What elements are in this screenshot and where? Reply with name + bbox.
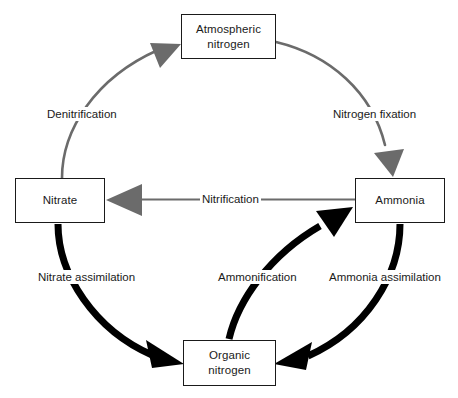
node-organic-nitrogen[interactable]: Organic nitrogen: [183, 340, 276, 386]
node-ammonia[interactable]: Ammonia: [355, 178, 445, 223]
edge-label-ammonia-assimilation: Ammonia assimilation: [327, 270, 443, 284]
edge-label-nitrification: Nitrification: [200, 192, 261, 206]
node-organic-nitrogen-line1: Organic: [209, 348, 250, 363]
denitrification-arrowhead: [150, 43, 181, 68]
edge-label-denitrification: Denitrification: [45, 107, 119, 121]
edge-label-ammonification: Ammonification: [216, 270, 299, 284]
ammonia-assimilation-arrowhead: [274, 342, 312, 370]
node-nitrate[interactable]: Nitrate: [15, 178, 105, 223]
node-atmospheric-nitrogen-line2: nitrogen: [207, 37, 249, 52]
node-atmospheric-nitrogen[interactable]: Atmospheric nitrogen: [181, 14, 276, 59]
node-nitrate-line1: Nitrate: [43, 193, 78, 208]
nitrogen-fixation-arrow-path: [276, 42, 385, 145]
edge-label-nitrogen-fixation: Nitrogen fixation: [331, 107, 418, 121]
nitrification-arrowhead: [106, 184, 142, 216]
nitrate-assimilation-arrow-path: [58, 224, 152, 355]
node-organic-nitrogen-line2: nitrogen: [208, 363, 250, 378]
node-atmospheric-nitrogen-line1: Atmospheric: [196, 22, 261, 37]
ammonification-arrowhead: [316, 207, 353, 237]
nitrogen-cycle-diagram: Atmospheric nitrogen Nitrate Ammonia Org…: [0, 0, 458, 398]
edge-label-nitrate-assimilation: Nitrate assimilation: [36, 270, 137, 284]
node-ammonia-line1: Ammonia: [375, 193, 424, 208]
nitrate-assimilation-arrow: [58, 224, 184, 368]
nitrogen-fixation-arrowhead: [374, 149, 404, 177]
nitrate-assimilation-arrowhead: [146, 340, 184, 368]
ammonia-assimilation-arrow-path: [308, 224, 400, 356]
